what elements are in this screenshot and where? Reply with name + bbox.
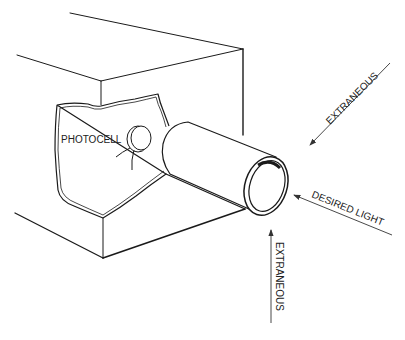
arrows — [271, 63, 392, 323]
desired-light-label: DESIRED LIGHT — [310, 189, 385, 228]
box-top-back-edge — [70, 13, 243, 49]
box-top-left-edge — [17, 55, 101, 81]
box-bottom-right-edge — [103, 209, 245, 258]
box-top-front-edge — [101, 49, 243, 81]
extraneous-top-label: EXTRANEOUS — [324, 70, 381, 127]
cutaway-outline — [55, 94, 169, 218]
photocell-diagram: PHOTOCELL EXTRANEOUS DESIRED LIGHT EXTRA… — [0, 0, 405, 340]
photocell-lens — [131, 126, 151, 150]
light-tube — [162, 122, 295, 221]
photocell-label: PHOTOCELL — [61, 134, 122, 145]
photocell — [116, 126, 151, 170]
photocell-lead-1 — [116, 148, 130, 157]
box-bottom-left-edge — [15, 213, 103, 258]
extraneous-bottom-label: EXTRANEOUS — [274, 242, 285, 311]
